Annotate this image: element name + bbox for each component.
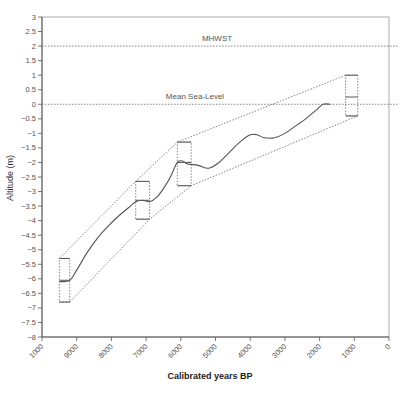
y-tick-label: −7	[27, 303, 36, 312]
envelope-line	[70, 116, 358, 302]
sea-level-chart: 32.521.510.50−0.5−1−1.5−2−2.5−3−3.5−4−4.…	[0, 0, 407, 394]
y-tick-label: −5.5	[21, 260, 36, 269]
y-tick-label: −6	[27, 274, 36, 283]
y-tick-label: −6.5	[21, 289, 36, 298]
sea-level-curve	[59, 104, 330, 282]
x-tick-label: 2000	[305, 342, 323, 360]
y-tick-label: 1.5	[26, 56, 36, 65]
y-tick-label: −3	[27, 187, 36, 196]
x-tick-label: 7000	[131, 342, 149, 360]
x-tick-label: 5000	[201, 342, 219, 360]
mhwst-label: MHWST	[202, 34, 232, 43]
y-tick-label: −4.5	[21, 231, 36, 240]
y-tick-label: −2	[27, 158, 36, 167]
y-tick-label: 2.5	[26, 27, 36, 36]
x-tick-label: 4000	[235, 342, 253, 360]
y-tick-label: −4	[27, 216, 36, 225]
sea-level-curve-line	[59, 104, 330, 282]
y-tick-label: −2.5	[21, 173, 36, 182]
y-tick-label: −1.5	[21, 143, 36, 152]
y-axis: 32.521.510.50−0.5−1−1.5−2−2.5−3−3.5−4−4.…	[21, 13, 42, 342]
y-tick-label: 2	[32, 42, 36, 51]
y-tick-label: −0.5	[21, 114, 36, 123]
y-tick-label: −8	[27, 333, 36, 342]
y-tick-label: −5	[27, 245, 36, 254]
x-tick-label: 6000	[166, 342, 184, 360]
y-tick-label: −1	[27, 129, 36, 138]
y-tick-label: −7.5	[21, 318, 36, 327]
y-axis-title: Altitude (m)	[5, 155, 15, 201]
x-tick-label: 1000	[27, 342, 45, 360]
y-tick-label: 3	[32, 13, 36, 22]
x-tick-label: 0	[383, 342, 392, 351]
plot-frame	[42, 17, 389, 337]
plot-border	[42, 17, 389, 337]
mean-sea-level-label: Mean Sea-Level	[166, 92, 224, 101]
y-tick-label: −3.5	[21, 202, 36, 211]
x-tick-label: 1000	[340, 342, 358, 360]
y-tick-label: 0	[32, 100, 36, 109]
y-tick-label: 1	[32, 71, 36, 80]
envelope-lines	[59, 75, 357, 302]
error-box	[346, 75, 358, 116]
x-tick-label: 9000	[62, 342, 80, 360]
x-axis-title: Calibrated years BP	[167, 371, 252, 381]
x-tick-label: 8000	[97, 342, 115, 360]
error-boxes	[59, 75, 357, 302]
x-axis: 1000900080007000600050004000300020001000…	[27, 337, 392, 360]
y-tick-label: 0.5	[26, 85, 36, 94]
x-tick-label: 3000	[270, 342, 288, 360]
